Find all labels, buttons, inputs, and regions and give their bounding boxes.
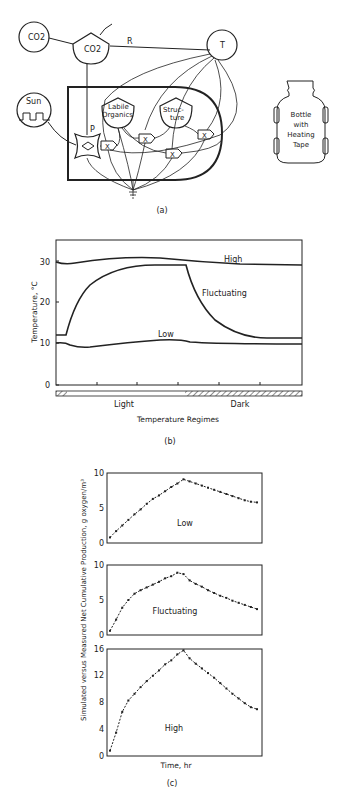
multiplier-gate-3: X (166, 149, 182, 159)
chart-c-fluctuating: 10 5 0 Fluctuating (94, 561, 262, 640)
data-point (170, 575, 172, 577)
sun-label: Sun (26, 97, 41, 106)
data-point (127, 599, 129, 601)
labile-label-line2: Organics (102, 111, 133, 119)
series-high-simulated (110, 650, 257, 750)
data-point (121, 711, 123, 713)
svg-text:0: 0 (99, 631, 104, 640)
producer-node (75, 134, 100, 158)
svg-text:X: X (170, 151, 175, 159)
data-point (164, 490, 166, 492)
data-point (213, 489, 215, 491)
data-point (158, 494, 160, 496)
panel-b-caption: (b) (164, 437, 175, 446)
label-low: Low (158, 330, 174, 339)
chart-c-high: 16 12 8 4 0 High (94, 645, 262, 761)
svg-text:High: High (165, 724, 183, 733)
producer-label: P (90, 125, 95, 134)
producer-interaction-diamond (82, 142, 94, 150)
data-point (146, 503, 148, 505)
data-point (109, 630, 111, 632)
labile-label-line1: Labile (108, 103, 129, 111)
svg-text:10: 10 (40, 339, 50, 348)
data-point (121, 525, 123, 527)
data-point (232, 495, 234, 497)
svg-text:30: 30 (40, 258, 50, 267)
data-point (256, 608, 258, 610)
multiplier-gate-4: X (198, 130, 214, 140)
data-point (195, 483, 197, 485)
panel-a-caption: (a) (156, 206, 167, 215)
data-point (250, 501, 252, 503)
series-low-measured (109, 478, 258, 538)
data-point (176, 572, 178, 574)
data-point (201, 586, 203, 588)
svg-text:X: X (202, 132, 207, 140)
light-label: Light (114, 400, 134, 409)
series-high-line (56, 258, 302, 265)
data-point (152, 498, 154, 500)
temperature-label: T (219, 41, 225, 50)
svg-text:8: 8 (99, 698, 104, 707)
svg-text:0: 0 (45, 381, 50, 390)
data-point (189, 657, 191, 659)
data-point (219, 682, 221, 684)
data-point (170, 659, 172, 661)
label-high: High (224, 255, 242, 264)
svg-text:Heating: Heating (287, 131, 314, 139)
data-point (238, 697, 240, 699)
data-point (201, 667, 203, 669)
data-point (134, 513, 136, 515)
data-point (189, 480, 191, 482)
data-point (127, 519, 129, 521)
figure-canvas: CO2 CO2 R T Sun P Labile Organics Struc- (0, 0, 339, 796)
data-point (256, 501, 258, 503)
data-point (207, 589, 209, 591)
svg-text:12: 12 (94, 671, 104, 680)
data-point (134, 693, 136, 695)
data-point (176, 483, 178, 485)
respiration-label: R (127, 37, 133, 46)
data-point (250, 706, 252, 708)
structure-label-line1: Struc- (163, 106, 184, 114)
series-fluctuating-simulated (110, 573, 257, 631)
sun-to-producer-line (48, 122, 76, 145)
data-point (140, 686, 142, 688)
co2-flow-arrow (49, 38, 73, 44)
svg-text:16: 16 (94, 645, 104, 654)
data-point (183, 573, 185, 575)
data-point (146, 586, 148, 588)
data-point (195, 663, 197, 665)
data-point (213, 677, 215, 679)
data-point (201, 485, 203, 487)
data-point (164, 577, 166, 579)
svg-text:Bottle: Bottle (291, 111, 312, 119)
data-point (109, 536, 111, 538)
data-point (109, 750, 111, 752)
svg-text:4: 4 (99, 725, 104, 734)
data-point (232, 693, 234, 695)
dark-segment-end (185, 391, 302, 396)
co2-exchange-line (100, 24, 112, 35)
dark-label: Dark (231, 400, 250, 409)
data-point (238, 497, 240, 499)
data-point (244, 702, 246, 704)
chart-b-y-label: Temperature, °C (30, 281, 39, 343)
dark-segment-start (56, 391, 67, 396)
panel-c-caption: (c) (167, 779, 178, 788)
svg-text:10: 10 (94, 469, 104, 478)
svg-text:10: 10 (94, 561, 104, 570)
svg-text:with: with (294, 121, 309, 129)
data-point (213, 592, 215, 594)
respiration-flow (110, 46, 210, 50)
data-point (158, 581, 160, 583)
series-low-line (56, 340, 302, 348)
co2-storage-label: CO2 (84, 45, 101, 54)
sun-pulse-icon (19, 113, 50, 120)
data-point (238, 602, 240, 604)
data-point (134, 593, 136, 595)
series-fluctuating-line (56, 265, 302, 338)
data-point (256, 708, 258, 710)
data-point (152, 584, 154, 586)
series-high-measured (109, 649, 258, 751)
